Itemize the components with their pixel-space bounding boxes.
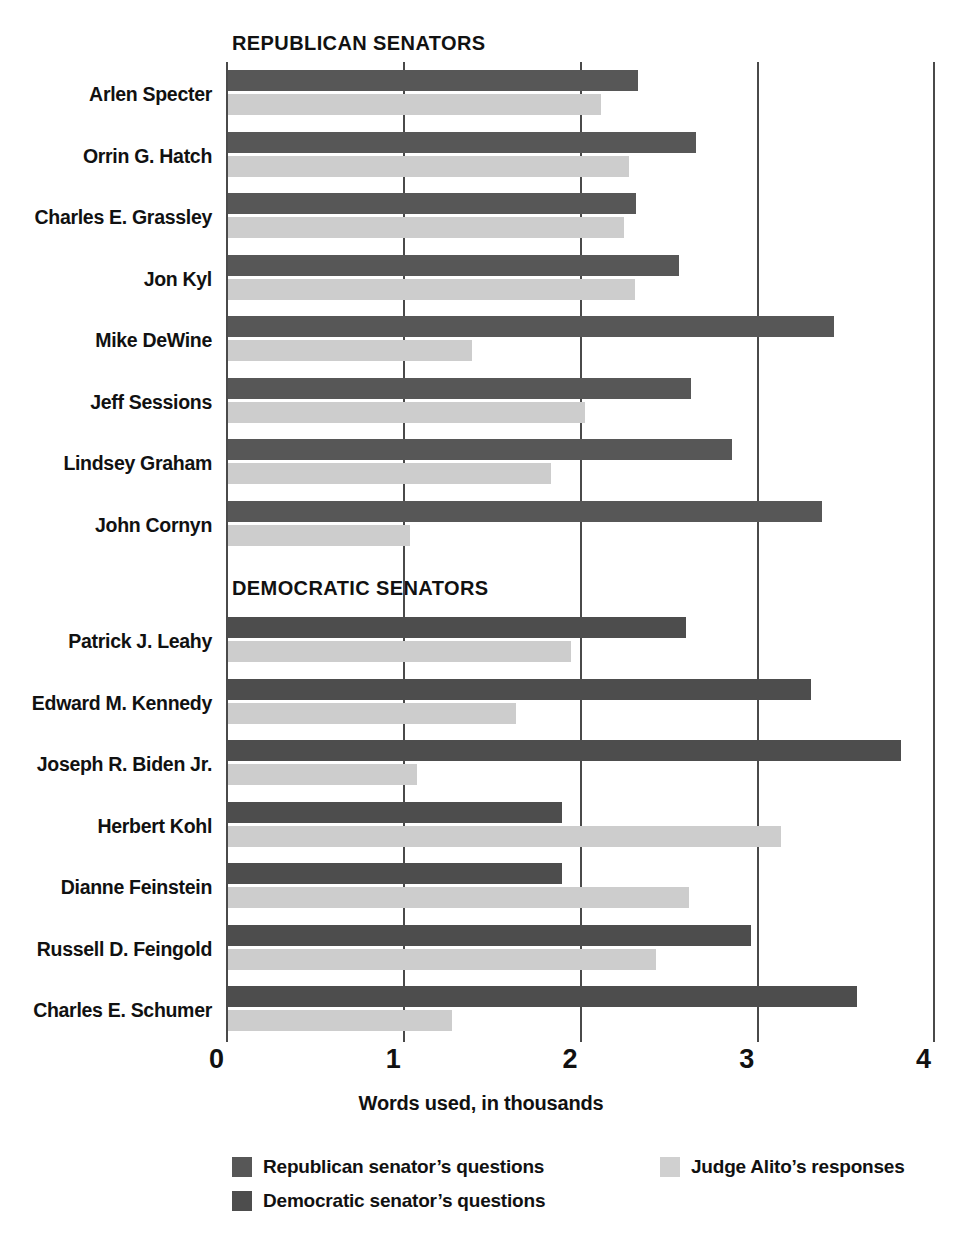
bar-alito-responses bbox=[228, 463, 551, 484]
bar-senator-questions bbox=[228, 255, 679, 276]
category-label: Arlen Specter bbox=[0, 83, 212, 106]
bar-senator-questions bbox=[228, 986, 857, 1007]
chart-legend: Republican senator’s questions Democrati… bbox=[0, 1142, 962, 1222]
category-label: Patrick J. Leahy bbox=[0, 630, 212, 653]
bar-alito-responses bbox=[228, 641, 571, 662]
bar-alito-responses bbox=[228, 340, 472, 361]
category-label: Dianne Feinstein bbox=[0, 876, 212, 899]
bar-alito-responses bbox=[228, 949, 656, 970]
bar-alito-responses bbox=[228, 156, 629, 177]
category-label: Orrin G. Hatch bbox=[0, 145, 212, 168]
bar-alito-responses bbox=[228, 1010, 452, 1031]
section-heading-republican: REPUBLICAN SENATORS bbox=[232, 32, 486, 55]
x-tick-4: 4 bbox=[916, 1044, 935, 1075]
bar-senator-questions bbox=[228, 316, 834, 337]
gridline-4 bbox=[933, 62, 935, 1042]
legend-item-alito-responses: Judge Alito’s responses bbox=[660, 1156, 905, 1178]
bar-senator-questions bbox=[228, 679, 811, 700]
category-label: Joseph R. Biden Jr. bbox=[0, 753, 212, 776]
category-label: Charles E. Grassley bbox=[0, 206, 212, 229]
bar-alito-responses bbox=[228, 826, 781, 847]
category-label: John Cornyn bbox=[0, 514, 212, 537]
category-label: Jon Kyl bbox=[0, 268, 212, 291]
legend-item-democratic-questions: Democratic senator’s questions bbox=[232, 1190, 545, 1212]
legend-swatch-responses bbox=[660, 1157, 680, 1177]
category-label: Russell D. Feingold bbox=[0, 938, 212, 961]
x-tick-0: 0 bbox=[209, 1044, 228, 1075]
bar-alito-responses bbox=[228, 887, 689, 908]
x-axis-label: Words used, in thousands bbox=[0, 1092, 962, 1115]
bar-alito-responses bbox=[228, 402, 585, 423]
bar-senator-questions bbox=[228, 501, 822, 522]
bar-senator-questions bbox=[228, 193, 636, 214]
bar-alito-responses bbox=[228, 279, 635, 300]
gridline-3 bbox=[757, 62, 759, 1042]
bar-senator-questions bbox=[228, 802, 562, 823]
bar-senator-questions bbox=[228, 378, 691, 399]
bar-senator-questions bbox=[228, 617, 686, 638]
bar-alito-responses bbox=[228, 525, 410, 546]
legend-label-democratic: Democratic senator’s questions bbox=[263, 1190, 545, 1212]
legend-swatch-republican bbox=[232, 1157, 252, 1177]
bar-alito-responses bbox=[228, 217, 624, 238]
x-tick-1: 1 bbox=[386, 1044, 405, 1075]
legend-label-responses: Judge Alito’s responses bbox=[691, 1156, 905, 1178]
bar-senator-questions bbox=[228, 70, 638, 91]
bar-alito-responses bbox=[228, 764, 417, 785]
bar-senator-questions bbox=[228, 439, 732, 460]
bar-senator-questions bbox=[228, 132, 696, 153]
bar-alito-responses bbox=[228, 94, 601, 115]
legend-label-republican: Republican senator’s questions bbox=[263, 1156, 544, 1178]
legend-item-republican-questions: Republican senator’s questions bbox=[232, 1156, 544, 1178]
category-label: Edward M. Kennedy bbox=[0, 692, 212, 715]
category-label: Mike DeWine bbox=[0, 329, 212, 352]
category-label: Herbert Kohl bbox=[0, 815, 212, 838]
x-tick-2: 2 bbox=[562, 1044, 581, 1075]
bar-senator-questions bbox=[228, 740, 901, 761]
bar-senator-questions bbox=[228, 863, 562, 884]
bar-senator-questions bbox=[228, 925, 751, 946]
bar-alito-responses bbox=[228, 703, 516, 724]
legend-swatch-democratic bbox=[232, 1191, 252, 1211]
category-label: Jeff Sessions bbox=[0, 391, 212, 414]
category-label: Lindsey Graham bbox=[0, 452, 212, 475]
chart-root: REPUBLICAN SENATORS DEMOCRATIC SENATORS … bbox=[0, 0, 962, 1235]
x-tick-3: 3 bbox=[739, 1044, 758, 1075]
category-label: Charles E. Schumer bbox=[0, 999, 212, 1022]
